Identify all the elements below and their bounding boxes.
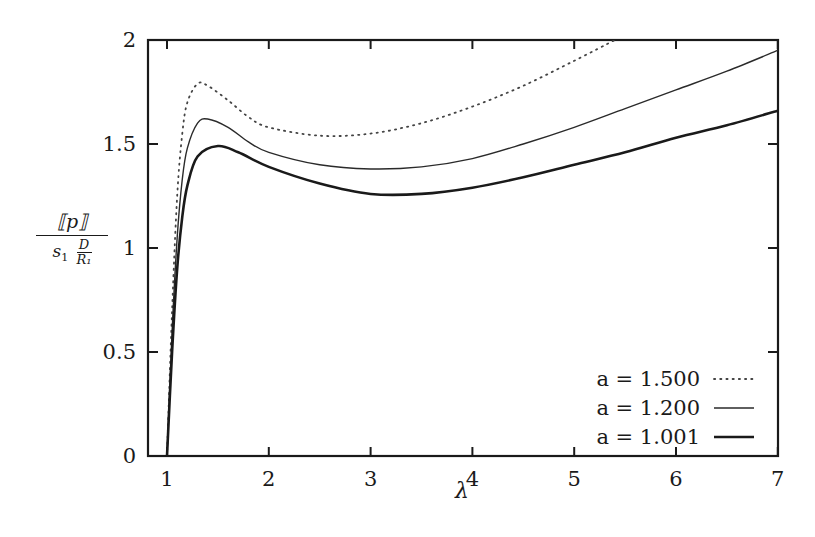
x-tick-label: 1 xyxy=(160,467,173,491)
x-tick-label: 3 xyxy=(364,467,377,491)
legend: a = 1.500a = 1.200a = 1.001 xyxy=(596,367,754,449)
y-label-s: s xyxy=(52,241,61,261)
data-curves xyxy=(167,40,778,456)
y-label-inner-den: R₁ xyxy=(77,253,92,267)
legend-label: a = 1.500 xyxy=(596,367,700,391)
y-label-inner-fraction: D R₁ xyxy=(77,238,92,267)
y-tick-label: 0.5 xyxy=(103,340,136,364)
legend-label: a = 1.200 xyxy=(596,396,700,420)
x-tick-label: 2 xyxy=(262,467,275,491)
y-label-inner-num: D xyxy=(77,238,92,253)
x-axis-label: λ xyxy=(455,478,469,503)
y-tick-label: 1.5 xyxy=(103,132,136,156)
axis-ticks: 123456700.511.52 xyxy=(103,28,785,491)
x-tick-label: 6 xyxy=(669,467,682,491)
y-tick-label: 2 xyxy=(123,28,136,52)
x-tick-label: 7 xyxy=(771,467,784,491)
series-line-0 xyxy=(167,40,615,456)
legend-label: a = 1.001 xyxy=(596,425,700,449)
y-tick-label: 1 xyxy=(123,236,136,260)
plot-border xyxy=(148,40,778,456)
y-axis-label: ⟦p⟧ s1 D R₁ xyxy=(36,210,108,267)
plot-frame xyxy=(148,40,778,456)
y-label-s-subscript: 1 xyxy=(61,251,68,264)
y-tick-label: 0 xyxy=(123,444,136,468)
line-chart: 123456700.511.52 a = 1.500a = 1.200a = 1… xyxy=(0,0,815,537)
y-label-numerator: ⟦p⟧ xyxy=(36,210,108,236)
x-tick-label: 5 xyxy=(568,467,581,491)
y-label-denominator: s1 D R₁ xyxy=(36,236,108,267)
